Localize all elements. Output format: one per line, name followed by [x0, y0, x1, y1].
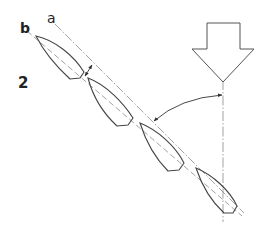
offset-dimension-arrow: [85, 65, 92, 76]
boat-3: [140, 123, 184, 171]
down-arrow-icon: [192, 23, 254, 82]
line-a-label: a: [47, 11, 56, 25]
boat-1: [36, 36, 84, 79]
boat-2: [88, 78, 133, 126]
figure-number: 2: [18, 76, 28, 91]
sailing-diagram: a b 2: [0, 0, 257, 229]
line-b-label: b: [20, 21, 30, 35]
diagram-svg: [0, 0, 257, 229]
boat-4: [196, 168, 237, 213]
angle-arc-arrow: [154, 95, 222, 121]
